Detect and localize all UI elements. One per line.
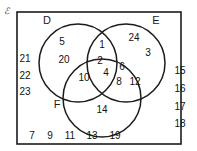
element-4: 4 (103, 67, 109, 78)
element-22: 22 (19, 70, 31, 81)
element-19: 19 (109, 130, 121, 141)
set-circle-F (63, 59, 141, 137)
element-16: 16 (174, 83, 186, 94)
outside-elements-bottom: 79111319 (29, 130, 121, 141)
region-D-only: 520 (58, 36, 70, 65)
venn-diagram-canvas: ℰ DEF 52024314110681224 2122231516171879… (0, 0, 197, 151)
element-14: 14 (96, 104, 108, 115)
element-23: 23 (19, 86, 31, 97)
region-D-and-F: 10 (78, 72, 90, 83)
region-E-only: 243 (128, 32, 151, 58)
element-9: 9 (47, 130, 53, 141)
venn-diagram-page: ℰ DEF 52024314110681224 2122231516171879… (0, 0, 197, 151)
element-10: 10 (78, 72, 90, 83)
outside-elements-left: 212223 (19, 53, 31, 97)
set-label-F: F (54, 98, 61, 110)
element-12: 12 (129, 76, 141, 87)
region-E-and-F: 6812 (116, 61, 141, 87)
element-24: 24 (128, 32, 140, 43)
element-13: 13 (86, 130, 98, 141)
element-20: 20 (58, 54, 70, 65)
element-17: 17 (174, 101, 186, 112)
element-21: 21 (19, 53, 31, 64)
set-circle-D (39, 24, 117, 102)
element-1: 1 (99, 39, 105, 50)
element-3: 3 (145, 47, 151, 58)
universal-set-symbol: ℰ (4, 6, 11, 16)
element-15: 15 (174, 65, 186, 76)
element-11: 11 (65, 130, 76, 141)
element-18: 18 (174, 118, 186, 129)
element-5: 5 (59, 36, 65, 47)
element-7: 7 (29, 130, 35, 141)
set-label-E: E (152, 14, 159, 26)
set-label-D: D (43, 14, 51, 26)
region-F-only: 14 (96, 104, 108, 115)
element-6: 6 (119, 61, 125, 72)
element-8: 8 (116, 76, 122, 87)
region-D-and-E: 1 (99, 39, 105, 50)
element-2: 2 (97, 55, 103, 66)
